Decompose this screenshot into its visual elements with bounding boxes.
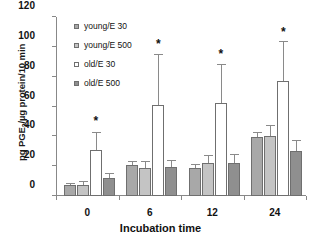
error-bar-cap <box>141 161 150 162</box>
error-bar-cap <box>217 64 226 65</box>
bar <box>189 168 201 196</box>
legend-item: old/E 500 <box>74 75 132 91</box>
bar <box>126 165 138 196</box>
x-group-label: 12 <box>182 207 242 218</box>
error-bar <box>257 133 258 137</box>
error-bar <box>283 42 284 81</box>
error-bar-cap <box>167 160 176 161</box>
legend-item: old/E 30 <box>74 56 132 72</box>
x-tick-mark <box>244 196 245 200</box>
significance-marker: * <box>276 26 290 38</box>
error-bar-cap <box>128 161 137 162</box>
error-bar <box>270 126 271 136</box>
y-axis-title-post: /µg protein/10 min <box>16 44 27 124</box>
error-bar <box>221 65 222 103</box>
y-tick-label: 0 <box>5 179 35 190</box>
error-bar <box>83 182 84 185</box>
y-tick-label: 20 <box>5 149 35 160</box>
error-bar-cap <box>92 132 101 133</box>
x-group-label: 24 <box>245 207 305 218</box>
error-bar <box>208 156 209 163</box>
y-tick-mark <box>52 16 56 17</box>
error-bar <box>109 174 110 178</box>
bar <box>290 151 302 196</box>
chart-legend: young/E 30young/E 500old/E 30old/E 500 <box>74 18 132 94</box>
error-bar-cap <box>204 155 213 156</box>
error-bar <box>70 184 71 185</box>
error-bar <box>158 55 159 106</box>
legend-label: old/E 500 <box>84 78 120 88</box>
bar <box>277 81 289 196</box>
bar <box>139 168 151 196</box>
x-axis-title: Incubation time <box>0 222 321 234</box>
error-bar-cap <box>154 54 163 55</box>
error-bar-cap <box>266 125 275 126</box>
y-tick-label: 60 <box>5 90 35 101</box>
y-tick-mark <box>52 165 56 166</box>
significance-marker: * <box>89 115 103 127</box>
error-bar-cap <box>253 132 262 133</box>
bar <box>264 136 276 196</box>
legend-swatch-icon <box>74 24 79 29</box>
y-tick-mark <box>52 106 56 107</box>
legend-swatch-icon <box>74 43 79 48</box>
legend-label: young/E 500 <box>84 40 132 50</box>
y-tick-label: 100 <box>5 30 35 41</box>
error-bar <box>234 155 235 163</box>
bar <box>77 185 89 196</box>
legend-swatch-icon <box>74 62 79 67</box>
legend-label: young/E 30 <box>84 21 127 31</box>
significance-marker: * <box>214 48 228 60</box>
bar <box>251 137 263 196</box>
error-bar-cap <box>191 164 200 165</box>
x-tick-mark <box>306 196 307 200</box>
x-group-label: 6 <box>120 207 180 218</box>
y-axis-title: pg PGE2/µg protein/10 min <box>16 14 29 190</box>
bar <box>152 105 164 196</box>
legend-label: old/E 30 <box>84 59 115 69</box>
bar <box>215 103 227 196</box>
error-bar-cap <box>279 41 288 42</box>
error-bar-cap <box>230 154 239 155</box>
y-tick-mark <box>52 135 56 136</box>
y-tick-label: 80 <box>5 60 35 71</box>
legend-item: young/E 500 <box>74 37 132 53</box>
legend-item: young/E 30 <box>74 18 132 34</box>
error-bar <box>96 133 97 150</box>
bar <box>228 163 240 196</box>
x-tick-mark <box>56 196 57 200</box>
x-tick-mark <box>119 196 120 200</box>
error-bar <box>171 161 172 167</box>
y-tick-label: 40 <box>5 119 35 130</box>
significance-marker: * <box>151 38 165 50</box>
y-tick-mark <box>52 76 56 77</box>
error-bar-cap <box>79 181 88 182</box>
bar <box>103 178 115 196</box>
error-bar <box>296 141 297 151</box>
x-tick-mark <box>181 196 182 200</box>
bar <box>202 163 214 196</box>
error-bar-cap <box>105 173 114 174</box>
error-bar <box>145 162 146 168</box>
error-bar-cap <box>66 183 75 184</box>
y-tick-mark <box>52 46 56 47</box>
y-tick-label: 120 <box>5 0 35 11</box>
legend-swatch-icon <box>74 81 79 86</box>
error-bar <box>132 162 133 165</box>
error-bar <box>195 165 196 167</box>
chart-figure: pg PGE2/µg protein/10 min 02040608010012… <box>0 0 321 246</box>
bar <box>90 150 102 196</box>
error-bar-cap <box>292 140 301 141</box>
bar <box>64 185 76 196</box>
x-group-label: 0 <box>57 207 117 218</box>
bar <box>165 167 177 196</box>
y-axis-line <box>56 17 57 196</box>
